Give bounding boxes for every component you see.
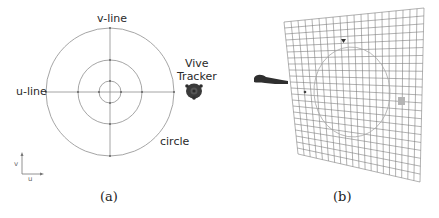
axis-v-label: v xyxy=(14,160,18,168)
circle-label: circle xyxy=(160,135,189,148)
u-line-label: u-line xyxy=(16,85,47,98)
uv-axes-icon xyxy=(21,152,45,176)
caption-a: (a) xyxy=(100,189,118,204)
panel-b-vr-grid: (b) xyxy=(220,0,439,218)
axis-u-label: u xyxy=(28,175,32,183)
v-line-label: v-line xyxy=(97,12,127,25)
tracker-label-line1: Vive xyxy=(185,57,209,70)
tracker-label-line2: Tracker xyxy=(177,70,217,83)
perspective-grid xyxy=(220,0,439,218)
circle-diagram xyxy=(0,0,220,218)
controller-pointer-icon xyxy=(254,75,288,84)
panel-a-circle-diagram: v-line u-line Vive Tracker circle v u (a… xyxy=(0,0,220,218)
caption-b: (b) xyxy=(333,189,351,204)
cursor-dot-icon xyxy=(304,91,307,94)
vive-tracker-icon xyxy=(185,84,203,100)
tracker-marker-icon xyxy=(398,97,405,105)
top-marker-icon xyxy=(341,39,346,43)
